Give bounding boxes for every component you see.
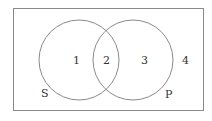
venn-diagram: 1 2 3 4 S P <box>0 0 212 121</box>
region-4-label: 4 <box>182 54 189 67</box>
set-p-label: P <box>165 88 173 101</box>
region-2-label: 2 <box>103 54 110 67</box>
set-s-label: S <box>41 87 49 100</box>
region-1-label: 1 <box>73 54 80 67</box>
region-3-label: 3 <box>141 54 148 67</box>
